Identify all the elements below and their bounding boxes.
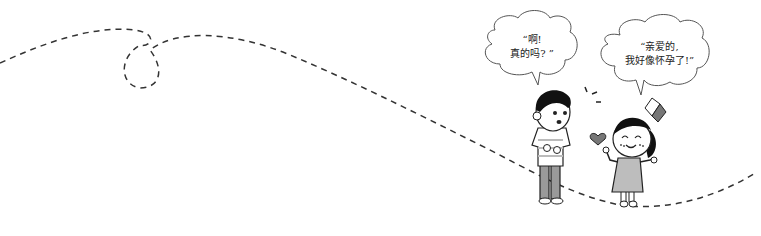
surprise-marks-icon: [585, 87, 601, 102]
boy-speech-line-1: “啊!: [497, 33, 567, 47]
girl-speech-line-2: 我好像怀孕了!”: [612, 54, 707, 68]
girl-speech-line-1: “亲爱的,: [612, 40, 707, 54]
heart-icon: [590, 133, 606, 145]
boy-speech-text: “啊! 真的吗? ”: [497, 33, 567, 61]
boy-speech-line-2: 真的吗? ”: [497, 47, 567, 61]
scene-drawing: [0, 0, 761, 236]
boy-character: [532, 90, 571, 204]
girl-character: [603, 98, 666, 207]
illustration-scene: “啊! 真的吗? ” “亲爱的, 我好像怀孕了!”: [0, 0, 761, 236]
girl-speech-text: “亲爱的, 我好像怀孕了!”: [612, 40, 707, 68]
